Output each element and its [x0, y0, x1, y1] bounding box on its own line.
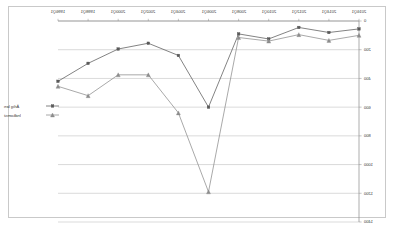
series-line: [58, 35, 359, 192]
legend-label: Indkomst: [4, 113, 44, 118]
y-axis-tick-label: 800: [364, 133, 371, 138]
legend-markers: [46, 105, 59, 117]
data-point-marker: [298, 26, 301, 29]
x-axis-tick-label: 2016Q1: [342, 9, 376, 14]
y-axis-tick-label: 200: [364, 47, 371, 52]
x-axis-tick-label: 2012Q1: [282, 9, 316, 14]
y-axis-tick-label: 0: [364, 18, 366, 23]
x-axis-tick-label: 2008Q1: [222, 9, 256, 14]
x-axis-tick-label: 1996Q1: [41, 9, 75, 14]
data-point-marker: [207, 106, 210, 109]
data-point-marker: [177, 54, 180, 57]
axis-ticks: [58, 19, 362, 222]
series-1: [57, 26, 361, 108]
data-point-marker: [358, 28, 361, 31]
x-axis-tick-label: 2014Q1: [312, 9, 346, 14]
data-point-marker: [328, 31, 331, 34]
y-axis-tick-label: 600: [364, 105, 371, 110]
data-point-marker: [56, 84, 60, 88]
data-point-marker: [51, 105, 54, 108]
data-point-marker: [207, 190, 211, 194]
legend-label: Årlig løn: [4, 104, 44, 109]
data-point-marker: [237, 33, 240, 36]
series-line: [58, 27, 359, 107]
y-axis-tick-label: 1400: [364, 219, 373, 224]
x-axis-tick-label: 1998Q1: [71, 9, 105, 14]
line-chart: [0, 0, 404, 246]
y-axis-tick-label: 400: [364, 76, 371, 81]
data-point-marker: [147, 42, 150, 45]
y-axis-tick-label: 1200: [364, 191, 373, 196]
x-axis-tick-label: 2006Q1: [192, 9, 226, 14]
x-axis-tick-label: 2010Q1: [252, 9, 286, 14]
data-series-layer: [56, 26, 361, 194]
x-axis-tick-label: 2004Q1: [161, 9, 195, 14]
data-point-marker: [117, 48, 120, 51]
data-point-marker: [87, 62, 90, 65]
y-axis-tick-label: 1000: [364, 162, 373, 167]
data-point-marker: [57, 80, 60, 83]
